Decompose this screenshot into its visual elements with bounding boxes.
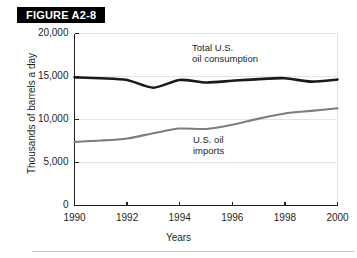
bottom-divider (32, 251, 354, 252)
annotation-consumption-line2: oil consumption (192, 53, 258, 64)
annotation-oil-imports: U.S. oil imports (193, 134, 224, 156)
x-tick-label-1994: 1994 (160, 212, 200, 223)
data-series-lines (75, 77, 338, 142)
annotation-consumption-line1: Total U.S. (192, 42, 258, 53)
annotation-total-consumption: Total U.S. oil consumption (192, 42, 258, 64)
annotation-imports-line1: U.S. oil (193, 134, 224, 145)
x-tick-label-2000: 2000 (318, 212, 357, 223)
y-tick-label-0: 0 (23, 199, 69, 210)
y-axis-title: Thousands of barrels a day (26, 29, 37, 199)
annotation-imports-line2: imports (193, 145, 224, 156)
x-axis-title: Years (0, 232, 357, 243)
series-line-consumption (75, 77, 338, 87)
x-tick-label-1992: 1992 (107, 212, 147, 223)
x-tick-label-1990: 1990 (55, 212, 95, 223)
x-tick-label-1996: 1996 (212, 212, 252, 223)
figure-page: FIGURE A2-8 05,00010,00015,00020,000 199… (0, 0, 357, 258)
chart-plot-area: 05,00010,00015,00020,000 199019921994199… (0, 0, 357, 258)
x-tick-label-1998: 1998 (265, 212, 305, 223)
